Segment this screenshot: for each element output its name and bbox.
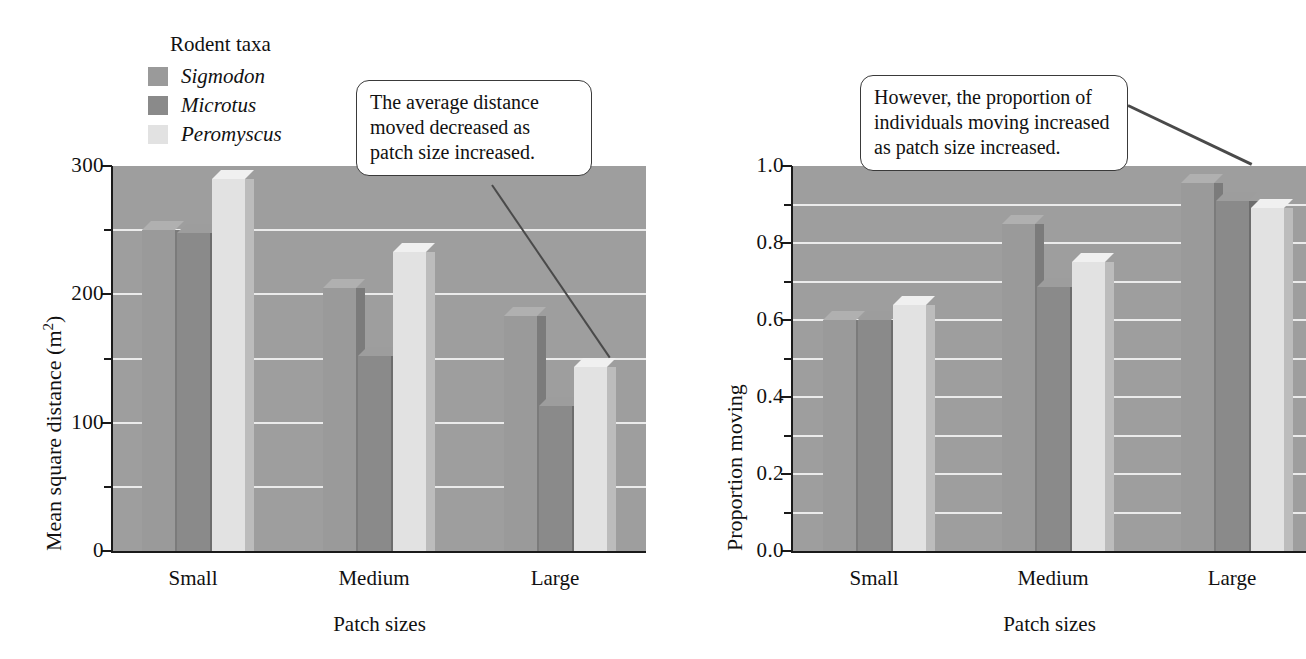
x-axis-line <box>791 551 1306 553</box>
y-tick-label: 300 <box>14 155 104 176</box>
bar-top <box>1181 174 1223 183</box>
bar-face <box>142 230 175 551</box>
x-axis-title: Patch sizes <box>793 612 1306 637</box>
bar-face <box>393 252 426 551</box>
bar-microtus-small <box>858 320 891 551</box>
legend-title: Rodent taxa <box>170 32 282 57</box>
callout-leader-line-right <box>1127 104 1252 166</box>
legend-item-sigmodon: Sigmodon <box>148 64 282 88</box>
y-tick-label: 1.0 <box>694 155 784 176</box>
y-axis-title-left: Mean square distance (m2) <box>40 316 67 551</box>
y-tick-label: 0.6 <box>694 309 784 330</box>
legend-swatch-sigmodon <box>148 67 168 86</box>
bar-top <box>212 170 254 179</box>
bar-peromyscus-medium <box>1072 262 1105 551</box>
y-tick-label: 0.8 <box>694 232 784 253</box>
legend-label-sigmodon: Sigmodon <box>181 64 265 89</box>
bar-top <box>504 307 546 316</box>
bar-sigmodon-medium <box>323 288 356 551</box>
bar-side <box>607 367 616 551</box>
bar-microtus-medium <box>358 356 391 551</box>
callout-proportion-moving: However, the proportion of individuals m… <box>860 75 1128 171</box>
y-tick-minor <box>784 512 792 514</box>
bar-peromyscus-medium <box>393 252 426 551</box>
y-tick-label: 0.2 <box>694 463 784 484</box>
bar-face <box>1002 224 1035 551</box>
y-axis-line <box>791 166 793 553</box>
bar-peromyscus-small <box>893 305 926 551</box>
plot-area <box>793 166 1306 551</box>
bar-face <box>539 406 572 551</box>
legend-label-peromyscus: Peromyscus <box>181 122 282 147</box>
plot-area <box>113 166 646 551</box>
bar-sigmodon-large <box>504 316 537 551</box>
y-tick-label: 200 <box>14 283 104 304</box>
x-category-label-large: Large <box>1162 566 1302 591</box>
y-tick-minor <box>784 204 792 206</box>
y-tick-minor <box>104 358 112 360</box>
y-tick-label: 0.4 <box>694 386 784 407</box>
bar-side <box>245 179 254 551</box>
bar-face <box>574 367 607 551</box>
x-category-label-small: Small <box>804 566 944 591</box>
bar-microtus-large <box>1216 201 1249 551</box>
y-tick-minor <box>784 358 792 360</box>
bar-sigmodon-medium <box>1002 224 1035 551</box>
y-axis-line <box>111 166 113 553</box>
bar-face <box>823 320 856 551</box>
chart-panel-right: Proportion moving 0.00.20.40.60.81.0Smal… <box>660 0 1306 659</box>
bar-sigmodon-small <box>823 320 856 551</box>
bar-side <box>426 252 435 551</box>
y-tick-minor <box>784 281 792 283</box>
bar-top <box>893 296 935 305</box>
y-tick-minor <box>784 435 792 437</box>
bar-face <box>858 320 891 551</box>
bar-face <box>504 316 537 551</box>
y-tick-label: 100 <box>14 412 104 433</box>
bar-top <box>1002 215 1044 224</box>
bar-face <box>1037 287 1070 551</box>
bar-top <box>323 279 365 288</box>
bar-microtus-small <box>177 233 210 551</box>
x-category-label-medium: Medium <box>983 566 1123 591</box>
bar-face <box>212 179 245 551</box>
x-category-label-large: Large <box>485 566 625 591</box>
bar-face <box>323 288 356 551</box>
bar-sigmodon-large <box>1181 183 1214 551</box>
bar-face <box>358 356 391 551</box>
bar-side <box>1284 208 1293 551</box>
x-category-label-medium: Medium <box>304 566 444 591</box>
y-tick-label: 0.0 <box>694 540 784 561</box>
bar-peromyscus-large <box>574 367 607 551</box>
bar-face <box>1072 262 1105 551</box>
bar-face <box>893 305 926 551</box>
bar-microtus-large <box>539 406 572 551</box>
bar-face <box>1216 201 1249 551</box>
bar-sigmodon-small <box>142 230 175 551</box>
callout-average-distance: The average distance moved decreased as … <box>356 80 592 176</box>
legend-swatch-peromyscus <box>148 125 168 144</box>
bar-side <box>926 305 935 551</box>
bar-top <box>574 358 616 367</box>
legend-item-microtus: Microtus <box>148 93 282 117</box>
bar-peromyscus-large <box>1251 208 1284 551</box>
bar-peromyscus-small <box>212 179 245 551</box>
legend-swatch-microtus <box>148 96 168 115</box>
bar-top <box>1072 253 1114 262</box>
y-tick-minor <box>104 486 112 488</box>
bar-microtus-medium <box>1037 287 1070 551</box>
bar-face <box>1251 208 1284 551</box>
x-axis-line <box>111 551 646 553</box>
bar-face <box>1181 183 1214 551</box>
x-axis-title: Patch sizes <box>113 612 646 637</box>
bar-top <box>393 243 435 252</box>
bar-side <box>1105 262 1114 551</box>
y-tick-label: 0 <box>14 540 104 561</box>
bar-top <box>1251 199 1293 208</box>
legend-label-microtus: Microtus <box>181 93 256 118</box>
legend: Rodent taxa Sigmodon Microtus Peromyscus <box>148 32 282 151</box>
x-category-label-small: Small <box>123 566 263 591</box>
y-tick-minor <box>104 229 112 231</box>
legend-item-peromyscus: Peromyscus <box>148 122 282 146</box>
bar-face <box>177 233 210 551</box>
